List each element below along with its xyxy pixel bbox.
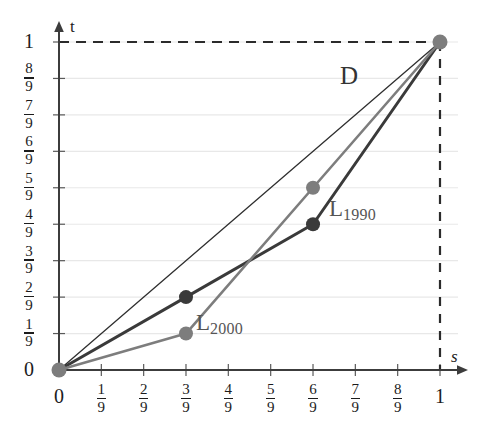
- lorenz-curve-figure: t s D L1990 L2000 019293949596979891 019…: [0, 0, 484, 430]
- y-tick-label-5-fraction: 59: [24, 171, 34, 204]
- x-tick-label-0: 0: [39, 386, 79, 406]
- curves-group: [59, 42, 440, 370]
- y-tick-label-4: 49: [12, 207, 46, 240]
- numerator: 1: [24, 317, 34, 332]
- x-tick-label-6-fraction: 69: [308, 382, 318, 415]
- annotation-label-l2000: L2000: [196, 310, 243, 338]
- denominator: 9: [24, 298, 34, 313]
- numerator: 7: [24, 98, 34, 113]
- x-tick-label-8: 89: [378, 382, 418, 415]
- numerator: 8: [393, 382, 403, 397]
- denominator: 9: [24, 152, 34, 167]
- curve-d: [59, 42, 440, 370]
- denominator: 9: [181, 400, 191, 415]
- numerator: 3: [24, 244, 34, 259]
- numerator: 2: [24, 280, 34, 295]
- y-tick-label-9: 1: [12, 31, 46, 51]
- denominator: 9: [24, 79, 34, 94]
- y-axis-label: t: [70, 17, 75, 37]
- data-point-l-1990: [306, 217, 320, 231]
- x-tick-label-2-fraction: 29: [139, 382, 149, 415]
- data-point-origin: [52, 363, 67, 378]
- x-tick-label-1-fraction: 19: [97, 382, 107, 415]
- y-tick-label-3-fraction: 39: [24, 244, 34, 277]
- denominator: 9: [97, 400, 107, 415]
- denominator: 9: [24, 225, 34, 240]
- x-tick-label-9: 1: [420, 386, 460, 406]
- x-tick-label-7: 79: [335, 382, 375, 415]
- x-tick-label-5-fraction: 59: [266, 382, 276, 415]
- x-tick-label-8-fraction: 89: [393, 382, 403, 415]
- x-tick-label-4-fraction: 49: [224, 382, 234, 415]
- axes-group: [54, 21, 468, 375]
- x-axis-arrowhead: [457, 365, 468, 375]
- numerator: 4: [24, 207, 34, 222]
- data-point-l-1990: [179, 290, 193, 304]
- annotation-label-l1990: L1990: [329, 196, 376, 224]
- l1990-letter: L: [329, 196, 343, 221]
- y-tick-label-7-fraction: 79: [24, 98, 34, 131]
- x-tick-label-9-text: 1: [435, 385, 445, 407]
- numerator: 6: [24, 134, 34, 149]
- y-tick-label-4-fraction: 49: [24, 207, 34, 240]
- numerator: 5: [266, 382, 276, 397]
- numerator: 1: [97, 382, 107, 397]
- denominator: 9: [308, 400, 318, 415]
- data-point-l-2000: [179, 327, 193, 341]
- denominator: 9: [24, 261, 34, 276]
- numerator: 2: [139, 382, 149, 397]
- numerator: 7: [351, 382, 361, 397]
- y-tick-label-2-fraction: 29: [24, 280, 34, 313]
- numerator: 6: [308, 382, 318, 397]
- numerator: 4: [224, 382, 234, 397]
- l2000-year: 2000: [210, 320, 243, 337]
- y-tick-label-3: 39: [12, 244, 46, 277]
- x-tick-label-5: 59: [251, 382, 291, 415]
- y-tick-label-0-text: 0: [24, 358, 34, 380]
- x-axis-label: s: [451, 347, 458, 367]
- x-tick-label-3-fraction: 39: [181, 382, 191, 415]
- denominator: 9: [393, 400, 403, 415]
- denominator: 9: [24, 116, 34, 131]
- numerator: 3: [181, 382, 191, 397]
- y-tick-label-7: 79: [12, 98, 46, 131]
- y-tick-label-8-fraction: 89: [24, 61, 34, 94]
- x-tick-label-1: 19: [81, 382, 121, 415]
- y-tick-label-8: 89: [12, 61, 46, 94]
- x-tick-label-4: 49: [208, 382, 248, 415]
- y-axis-arrowhead: [54, 21, 64, 32]
- data-point-endpoint: [433, 35, 448, 50]
- denominator: 9: [24, 334, 34, 349]
- y-tick-label-1-fraction: 19: [24, 317, 34, 350]
- y-tick-label-2: 29: [12, 280, 46, 313]
- y-tick-label-0: 0: [12, 359, 46, 379]
- l1990-year: 1990: [343, 206, 376, 223]
- y-tick-label-6-fraction: 69: [24, 134, 34, 167]
- y-tick-label-6: 69: [12, 134, 46, 167]
- denominator: 9: [224, 400, 234, 415]
- x-tick-label-6: 69: [293, 382, 333, 415]
- annotation-label-D: D: [340, 62, 358, 90]
- y-tick-label-1: 19: [12, 317, 46, 350]
- plot-canvas: [0, 0, 484, 430]
- x-tick-label-3: 39: [166, 382, 206, 415]
- x-tick-label-0-text: 0: [54, 385, 64, 407]
- x-tick-label-7-fraction: 79: [351, 382, 361, 415]
- l2000-letter: L: [196, 310, 210, 335]
- numerator: 5: [24, 171, 34, 186]
- y-tick-label-9-text: 1: [24, 30, 34, 52]
- numerator: 8: [24, 61, 34, 76]
- x-tick-label-2: 29: [124, 382, 164, 415]
- gridlines-group: [59, 42, 458, 334]
- data-point-l-2000: [306, 181, 320, 195]
- denominator: 9: [351, 400, 361, 415]
- denominator: 9: [24, 188, 34, 203]
- denominator: 9: [266, 400, 276, 415]
- y-tick-label-5: 59: [12, 171, 46, 204]
- denominator: 9: [139, 400, 149, 415]
